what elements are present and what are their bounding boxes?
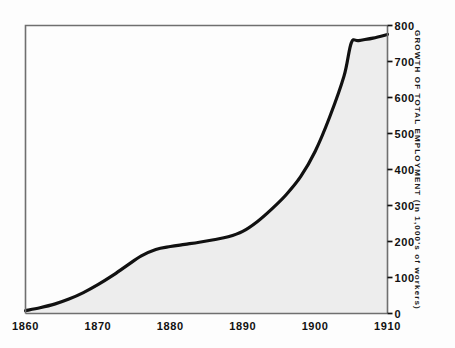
- y-axis-title: GROWTH OF TOTAL EMPLOYMENT (in 1,000's o…: [406, 25, 428, 315]
- x-axis-tick-label: 1900: [302, 320, 329, 332]
- area-series-group: [26, 35, 388, 314]
- y-axis-tick-label: 0: [395, 308, 402, 320]
- x-axis-tick-label: 1870: [84, 320, 111, 332]
- x-axis-tick-label: 1860: [12, 320, 39, 332]
- x-axis-tick-label: 1890: [229, 320, 256, 332]
- chart-figure: 186018701880189019001910 010020030040050…: [0, 0, 455, 348]
- x-axis-tick-label: 1880: [157, 320, 184, 332]
- x-axis-tick-label: 1910: [374, 320, 401, 332]
- chart-canvas: [0, 0, 455, 348]
- employment-area-fill: [26, 35, 388, 314]
- y-axis-title-text: GROWTH OF TOTAL EMPLOYMENT (in 1,000's o…: [413, 30, 422, 310]
